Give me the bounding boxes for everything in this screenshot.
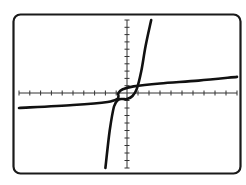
calculator-graph-screen [0, 0, 246, 185]
graph-canvas [0, 0, 246, 185]
